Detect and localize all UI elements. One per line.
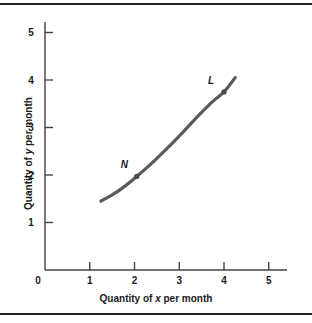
x-axis-title-prefix: Quantity of [100,293,156,304]
data-point-marker-l [221,89,226,94]
data-point-marker-n [134,174,139,179]
x-axis-ticks [90,262,269,270]
y-axis-title: Quantity of y per month [23,64,34,244]
y-axis-ticks [45,33,53,223]
figure-container: 1 2 3 4 5 0 1 2 3 4 5 Quantity of x per … [0,0,312,323]
y-axis-title-variable: y [23,149,34,155]
indifference-curve [101,78,235,202]
x-tick-label-5: 5 [262,275,276,286]
x-tick-label-2: 2 [128,275,142,286]
origin-label: 0 [31,275,45,286]
x-tick-label-1: 1 [83,275,97,286]
x-tick-label-3: 3 [172,275,186,286]
data-point-label-n: N [121,159,128,170]
data-point-label-l: L [208,75,214,86]
x-axis-title-suffix: per month [161,293,213,304]
y-axis-title-suffix: per month [23,97,34,149]
x-axis-title: Quantity of x per month [0,293,312,304]
y-tick-label-5: 5 [24,27,38,38]
x-tick-label-4: 4 [217,275,231,286]
y-axis-title-prefix: Quantity of [23,154,34,210]
